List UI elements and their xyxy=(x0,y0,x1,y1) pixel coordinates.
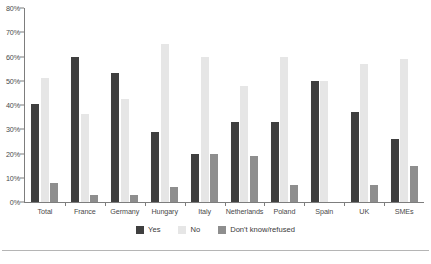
x-axis-separator xyxy=(384,202,385,206)
x-axis-separator xyxy=(264,202,265,206)
bar xyxy=(130,195,138,202)
bar xyxy=(400,59,408,202)
legend-item[interactable]: Don't know/refused xyxy=(218,225,295,234)
x-axis-category-label: Total xyxy=(25,207,65,216)
legend-label: Don't know/refused xyxy=(230,225,295,234)
y-axis-tick-mark xyxy=(20,56,24,57)
x-axis-separator xyxy=(185,202,186,206)
x-axis-category-label: Poland xyxy=(264,207,304,216)
bar xyxy=(90,195,98,202)
bar xyxy=(320,81,328,202)
legend-item[interactable]: No xyxy=(178,225,200,234)
x-axis-separator xyxy=(304,202,305,206)
bar-group xyxy=(384,8,424,202)
bar xyxy=(121,99,129,202)
x-axis-category-label: Hungary xyxy=(145,207,185,216)
bar-groups xyxy=(25,8,424,202)
bar xyxy=(360,64,368,202)
bar xyxy=(81,114,89,203)
bar xyxy=(50,183,58,202)
y-axis-tick-mark xyxy=(20,8,24,9)
chart-legend: YesNoDon't know/refused xyxy=(0,225,431,234)
bar xyxy=(240,86,248,202)
bar-group xyxy=(304,8,344,202)
x-axis-category-label: UK xyxy=(344,207,384,216)
bar-chart: 0%10%20%30%40%50%60%70%80% TotalFranceGe… xyxy=(0,0,431,264)
bar xyxy=(191,154,199,203)
x-axis-category-label: Spain xyxy=(304,207,344,216)
x-axis-separator xyxy=(105,202,106,206)
y-axis-tick-mark xyxy=(20,80,24,81)
legend-label: Yes xyxy=(148,225,160,234)
bar xyxy=(31,104,39,202)
y-axis-tick-mark xyxy=(20,129,24,130)
legend-swatch-icon xyxy=(218,226,226,234)
bar xyxy=(250,156,258,202)
legend-swatch-icon xyxy=(136,226,144,234)
bar xyxy=(41,78,49,202)
legend-item[interactable]: Yes xyxy=(136,225,160,234)
bar xyxy=(161,44,169,202)
bar-group xyxy=(25,8,65,202)
bar-group xyxy=(264,8,304,202)
x-axis-category-label: Netherlands xyxy=(225,207,265,216)
bar xyxy=(391,139,399,202)
y-axis-tick-mark xyxy=(20,177,24,178)
bar-group xyxy=(344,8,384,202)
x-axis-labels: TotalFranceGermanyHungaryItalyNetherland… xyxy=(25,207,424,216)
legend-label: No xyxy=(190,225,200,234)
bar xyxy=(111,73,119,202)
bar-group xyxy=(65,8,105,202)
bar xyxy=(151,132,159,202)
x-axis-category-label: Germany xyxy=(105,207,145,216)
bar xyxy=(170,187,178,202)
bar-group xyxy=(145,8,185,202)
y-axis-tick-mark xyxy=(20,153,24,154)
legend-swatch-icon xyxy=(178,226,186,234)
bar xyxy=(210,154,218,203)
x-axis-separator xyxy=(145,202,146,206)
bar xyxy=(71,57,79,203)
y-axis-tick-mark xyxy=(20,105,24,106)
x-axis-separator xyxy=(65,202,66,206)
y-axis-tick-mark xyxy=(20,32,24,33)
bar xyxy=(201,57,209,203)
bar xyxy=(280,57,288,203)
x-axis-separator xyxy=(225,202,226,206)
bottom-divider xyxy=(2,250,429,251)
bar xyxy=(231,122,239,202)
bar xyxy=(290,185,298,202)
x-axis-separator xyxy=(344,202,345,206)
bar-group xyxy=(105,8,145,202)
y-axis-tick-mark xyxy=(20,202,24,203)
x-axis-category-label: France xyxy=(65,207,105,216)
bar xyxy=(271,122,279,202)
bar xyxy=(351,112,359,202)
bar xyxy=(410,166,418,202)
bar xyxy=(370,185,378,202)
bar-group xyxy=(185,8,225,202)
x-axis-category-label: Italy xyxy=(185,207,225,216)
bar xyxy=(311,81,319,202)
bar-group xyxy=(225,8,265,202)
x-axis-category-label: SMEs xyxy=(384,207,424,216)
